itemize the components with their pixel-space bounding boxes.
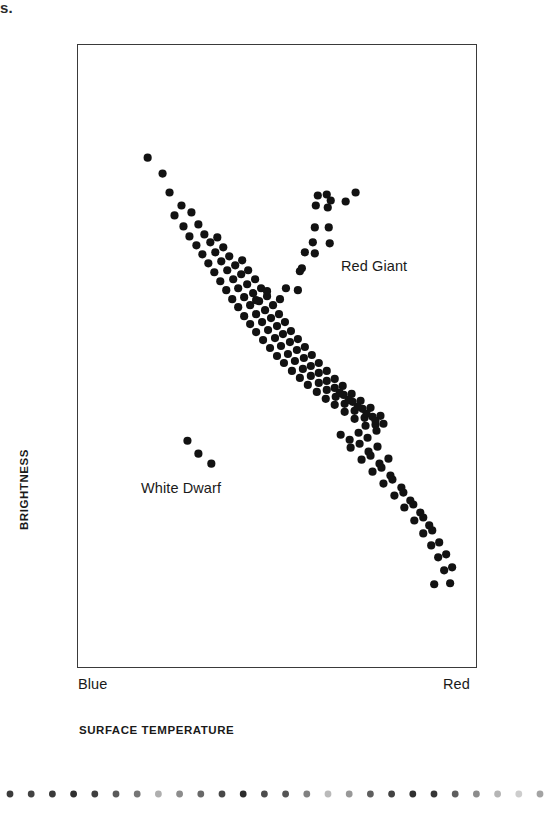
data-point — [144, 154, 152, 162]
dot-rule-dot — [240, 791, 247, 798]
data-point — [277, 342, 285, 350]
series-main-sequence — [144, 154, 457, 589]
data-point — [240, 293, 248, 301]
data-point — [311, 249, 319, 257]
dot-rule-dot — [197, 791, 204, 798]
data-point — [276, 295, 284, 303]
data-point — [249, 289, 257, 297]
data-point — [244, 266, 252, 274]
data-point — [357, 456, 365, 464]
data-point — [371, 417, 379, 425]
dot-rule-dot — [388, 791, 395, 798]
data-point — [273, 352, 281, 360]
dot-rule-dot — [261, 791, 268, 798]
data-point — [323, 367, 331, 375]
x-axis-title: SURFACE TEMPERATURE — [79, 724, 234, 736]
data-point — [229, 275, 237, 283]
data-point — [213, 233, 221, 241]
data-point — [288, 367, 296, 375]
dot-rule-canvas — [0, 784, 553, 804]
data-point — [206, 238, 214, 246]
data-point — [170, 211, 178, 219]
dot-rule-dot — [303, 791, 310, 798]
data-point — [252, 310, 260, 318]
data-point — [419, 529, 427, 537]
data-point — [216, 277, 224, 285]
data-point — [192, 241, 200, 249]
data-point — [282, 284, 290, 292]
data-point — [252, 328, 260, 336]
data-point — [356, 440, 364, 448]
data-point — [331, 375, 339, 383]
x-axis-left-endpoint-label: Blue — [78, 676, 107, 692]
data-point — [346, 436, 354, 444]
dot-rule-dot — [49, 791, 56, 798]
data-point — [362, 410, 370, 418]
data-point — [280, 359, 288, 367]
data-point — [222, 286, 230, 294]
data-point — [366, 452, 374, 460]
data-point — [355, 429, 363, 437]
data-point — [446, 579, 454, 587]
data-point — [313, 388, 321, 396]
data-point — [351, 415, 359, 423]
data-point — [323, 386, 331, 394]
data-point — [240, 312, 248, 320]
data-point — [177, 201, 185, 209]
data-point — [325, 223, 333, 231]
dot-rule-dot — [28, 791, 35, 798]
data-point — [409, 500, 417, 508]
data-point — [315, 379, 323, 387]
y-axis-title: BRIGHTNESS — [18, 449, 30, 530]
data-point — [275, 310, 283, 318]
data-point — [312, 201, 320, 209]
data-point — [287, 327, 295, 335]
plot-frame — [77, 44, 477, 668]
data-point — [259, 336, 267, 344]
data-point — [267, 314, 275, 322]
data-point — [258, 318, 266, 326]
data-point — [207, 460, 215, 468]
data-point — [296, 374, 304, 382]
data-point — [388, 476, 396, 484]
data-point — [307, 362, 315, 370]
data-point — [217, 257, 225, 265]
data-point — [187, 208, 195, 216]
data-point — [430, 580, 438, 588]
data-point — [158, 169, 166, 177]
hr-diagram-figure: Red Giant White Dwarf Blue Red SURFACE T… — [0, 0, 553, 822]
dot-rule-dot — [134, 791, 141, 798]
data-point — [271, 334, 279, 342]
data-point — [427, 541, 435, 549]
data-point — [296, 267, 304, 275]
data-point — [345, 396, 353, 404]
data-point — [326, 239, 334, 247]
data-point — [315, 359, 323, 367]
data-point — [231, 261, 239, 269]
data-point — [204, 259, 212, 267]
data-point — [219, 243, 227, 251]
data-point — [379, 420, 387, 428]
data-point — [399, 488, 407, 496]
data-point — [234, 284, 242, 292]
dot-rule-dot — [367, 791, 374, 798]
data-point — [225, 252, 233, 260]
data-point — [294, 335, 302, 343]
data-point — [211, 248, 219, 256]
data-point — [291, 357, 299, 365]
data-point — [293, 346, 301, 354]
data-point — [352, 188, 360, 196]
data-point — [294, 286, 302, 294]
data-point — [228, 295, 236, 303]
data-point — [243, 280, 251, 288]
annotation-red-giant: Red Giant — [341, 258, 407, 274]
data-point — [210, 268, 218, 276]
data-point — [252, 296, 260, 304]
dot-rule-dot — [219, 791, 226, 798]
data-point — [384, 455, 392, 463]
dot-rule-dot — [473, 791, 480, 798]
data-point — [266, 344, 274, 352]
data-point — [261, 306, 269, 314]
data-point — [165, 188, 173, 196]
dot-rule-dot — [70, 791, 77, 798]
